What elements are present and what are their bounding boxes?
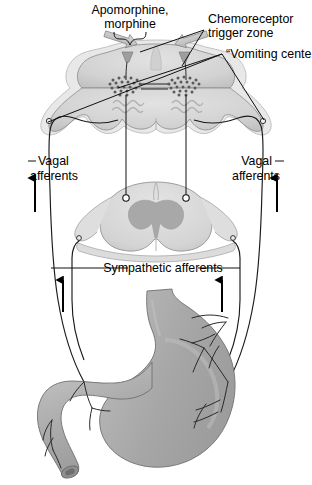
spinal-cord-cross-section	[75, 182, 237, 262]
stomach	[100, 289, 235, 467]
figure-canvas: Apomorphine, morphine Chemoreceptor trig…	[0, 0, 312, 485]
sympathetic-ganglion-right	[231, 236, 236, 241]
ctz-label-line1: Chemoreceptor	[208, 12, 293, 26]
vagal-left-label-line1: Vagal	[38, 154, 69, 168]
sympathetic-nerve-right	[228, 240, 240, 360]
ctz-label-line2: trigger zone	[208, 26, 274, 40]
sympathetic-nerve-left	[72, 240, 84, 360]
vomiting-reflex-figure: Apomorphine, morphine Chemoreceptor trig…	[0, 0, 312, 485]
vagal-left-label-line2: afferents	[30, 169, 78, 183]
sympathetic-afferents-label: Sympathetic afferents	[103, 261, 223, 275]
tract-terminal-left	[123, 195, 129, 201]
vomiting-center-label: “Vomiting center”	[226, 47, 312, 61]
tract-terminal-right	[183, 195, 189, 201]
drug-label-line1: Apomorphine,	[91, 3, 168, 17]
vagal-right-label-line2: afferents	[232, 169, 280, 183]
drug-label-line2: morphine	[104, 17, 156, 31]
vagal-right-label-line1: Vagal	[241, 154, 272, 168]
sympathetic-ganglion-left	[77, 236, 82, 241]
